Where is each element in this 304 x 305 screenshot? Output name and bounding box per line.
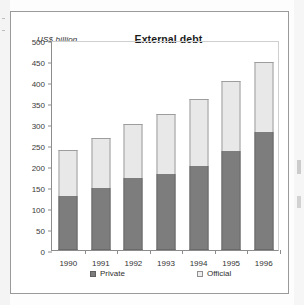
edge-speckle [2,30,5,31]
bar-segment-private [59,196,78,250]
y-tick-label: 450 [14,59,52,68]
legend-item-official: Official [197,269,231,278]
bar-stack [222,81,241,250]
bar-segment-official [59,150,78,196]
bar-segment-official [189,99,208,166]
y-tick-label: 400 [14,80,52,89]
x-tick-mark [182,250,183,254]
bar-segment-private [157,174,176,250]
y-tick-label: 150 [14,185,52,194]
y-tick-label: 0 [14,248,52,257]
legend-label-official: Official [207,269,231,278]
edge-speckle [297,160,301,174]
y-tick-label: 500 [14,38,52,47]
y-tick-mark [48,252,52,253]
bar-segment-official [91,138,110,188]
edge-speckle [2,18,5,19]
chart-frame: US$ billion External debt 05010015020025… [10,11,289,294]
x-tick-mark [247,250,248,254]
bar-stack [189,99,208,250]
x-tick-mark [117,250,118,254]
x-tick-label: 1994 [190,259,208,268]
x-tick-mark [85,250,86,254]
x-tick-label: 1996 [255,259,273,268]
x-tick-mark [150,250,151,254]
legend-label-private: Private [100,269,125,278]
y-tick-label: 350 [14,101,52,110]
legend-swatch-private-icon [90,271,96,277]
x-tick-label: 1992 [125,259,143,268]
page-edge-right [294,0,304,305]
edge-speckle [297,196,301,208]
y-tick-label: 100 [14,206,52,215]
x-tick-label: 1993 [157,259,175,268]
y-tick-label: 200 [14,164,52,173]
figure-canvas: US$ billion External debt 05010015020025… [0,0,304,305]
bar-stack [124,124,143,250]
x-tick-label: 1990 [59,259,77,268]
y-tick-label: 300 [14,122,52,131]
x-tick-mark [215,250,216,254]
bar-stack [91,138,110,250]
bar-segment-official [157,114,176,174]
x-tick-label: 1991 [92,259,110,268]
y-tick-label: 50 [14,227,52,236]
bar-segment-private [91,188,110,250]
bar-stack [157,114,176,250]
bar-segment-private [189,166,208,250]
bar-segment-private [124,178,143,250]
legend-item-private: Private [90,269,125,278]
plot-area: 050100150200250300350400450500 199019911… [51,41,279,251]
legend-swatch-official-icon [197,271,203,277]
bar-stack [59,150,78,250]
bars-layer [52,42,278,250]
bar-segment-private [254,132,273,250]
bar-stack [254,62,273,250]
chart-legend: Private Official [11,269,290,281]
bar-segment-official [222,81,241,151]
page-edge-left [0,0,10,305]
x-tick-label: 1995 [222,259,240,268]
x-tick-mark [280,250,281,254]
bar-segment-official [254,62,273,132]
bar-segment-private [222,151,241,250]
y-tick-label: 250 [14,143,52,152]
bar-segment-official [124,124,143,178]
